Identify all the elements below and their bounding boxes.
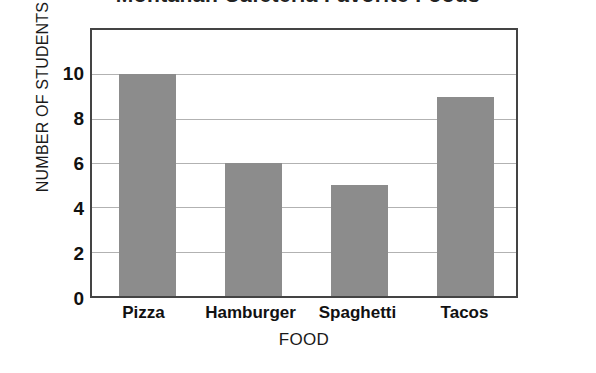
y-axis-tick-labels: 10 8 6 4 2 0: [46, 28, 84, 298]
x-tick-label-spaghetti: Spaghetti: [304, 303, 411, 323]
y-tick-label-10: 10: [50, 64, 84, 83]
x-tick-label-pizza: Pizza: [90, 303, 197, 323]
chart-title: Montanah Cafeteria Favorite Foods: [0, 0, 596, 7]
x-tick-label-hamburger: Hamburger: [197, 303, 304, 323]
y-tick-label-4: 4: [50, 199, 84, 218]
y-tick-label-8: 8: [50, 109, 84, 128]
x-axis-tick-labels: Pizza Hamburger Spaghetti Tacos: [90, 303, 518, 329]
bar-pizza[interactable]: [119, 74, 177, 296]
bar-hamburger[interactable]: [225, 163, 283, 296]
bars-layer: [92, 30, 516, 296]
bar-spaghetti[interactable]: [331, 185, 389, 296]
x-axis-title: FOOD: [90, 330, 518, 350]
y-tick-label-0: 0: [50, 289, 84, 308]
bar-tacos[interactable]: [437, 97, 495, 297]
y-tick-label-6: 6: [50, 154, 84, 173]
plot-area: [90, 28, 518, 298]
y-tick-label-2: 2: [50, 244, 84, 263]
x-tick-label-tacos: Tacos: [411, 303, 518, 323]
